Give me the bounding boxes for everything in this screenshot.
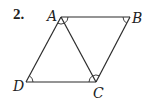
- diagonal-ac: [61, 17, 96, 82]
- angle-mark-c-top: [93, 75, 100, 76]
- angle-mark-b: [123, 17, 127, 23]
- vertex-label-c: C: [93, 86, 104, 100]
- angle-mark-a-lower: [58, 23, 65, 24]
- segment-bc: [96, 17, 130, 82]
- angle-mark-d: [29, 76, 33, 82]
- vertex-label-b: B: [132, 11, 142, 25]
- segment-da: [26, 17, 61, 82]
- angle-mark-a-right: [65, 17, 68, 23]
- vertex-label-a: A: [47, 9, 57, 23]
- angle-mark-c-left: [89, 76, 93, 82]
- vertex-label-d: D: [13, 79, 24, 93]
